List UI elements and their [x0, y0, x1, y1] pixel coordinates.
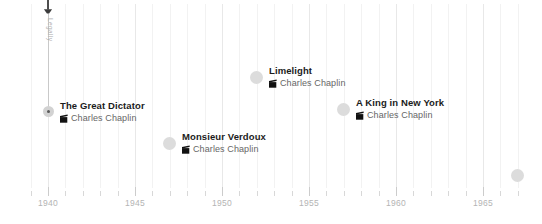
- axis-tick-1962: [431, 191, 432, 196]
- axis-tick-1960: [396, 187, 397, 196]
- event-subtitle: Charles Chaplin: [182, 143, 266, 155]
- clapperboard-icon: [60, 114, 68, 123]
- gridline-1946: [152, 4, 153, 188]
- gridline-1948: [187, 4, 188, 188]
- axis-tick-1961: [413, 191, 414, 196]
- event-title: Limelight: [269, 65, 346, 77]
- gridline-1950: [222, 4, 223, 188]
- gridline-1960: [396, 4, 397, 188]
- gridline-1949: [205, 4, 206, 188]
- event-subtitle: Charles Chaplin: [269, 77, 346, 89]
- axis-tick-1953: [274, 191, 275, 196]
- gridline-1958: [361, 4, 362, 188]
- gridline-1939: [31, 4, 32, 188]
- axis-tick-1954: [292, 191, 293, 196]
- clapperboard-icon: [269, 79, 277, 88]
- event-text-limelight: LimelightCharles Chaplin: [269, 65, 346, 89]
- axis-tick-1948: [187, 191, 188, 196]
- event-subtitle: Charles Chaplin: [356, 109, 444, 121]
- axis-tick-1942: [83, 191, 84, 196]
- gridline-1957: [344, 4, 345, 188]
- axis-label-1940: 1940: [38, 198, 58, 208]
- axis-tick-1947: [170, 191, 171, 196]
- map-pin-icon: [44, 0, 53, 15]
- gridline-1962: [431, 4, 432, 188]
- axis-tick-1959: [379, 191, 380, 196]
- event-subtitle: Charles Chaplin: [60, 112, 145, 124]
- gridline-1941: [65, 4, 66, 188]
- axis-tick-1944: [118, 191, 119, 196]
- gridline-1947: [170, 4, 171, 188]
- event-author: Charles Chaplin: [280, 77, 346, 89]
- event-text-monsieur-verdoux: Monsieur VerdouxCharles Chaplin: [182, 131, 266, 155]
- axis-tick-1957: [344, 191, 345, 196]
- axis-label-1965: 1965: [473, 198, 493, 208]
- gridline-1967: [518, 4, 519, 188]
- event-text-the-great-dictator: The Great DictatorCharles Chaplin: [60, 100, 145, 124]
- axis-tick-1958: [361, 191, 362, 196]
- event-author: Charles Chaplin: [367, 109, 433, 121]
- axis-label-1955: 1955: [299, 198, 319, 208]
- clapperboard-icon: [356, 111, 364, 120]
- event-text-a-king-in-new-york: A King in New YorkCharles Chaplin: [356, 97, 444, 121]
- gridline-1953: [274, 4, 275, 188]
- axis-tick-1964: [466, 191, 467, 196]
- gridline-1943: [100, 4, 101, 188]
- gridline-1966: [500, 4, 501, 188]
- axis-label-1950: 1950: [212, 198, 232, 208]
- axis-tick-1943: [100, 191, 101, 196]
- gridline-1945: [135, 4, 136, 188]
- gridline-1965: [483, 4, 484, 188]
- axis-tick-1967: [518, 191, 519, 196]
- gridline-1963: [448, 4, 449, 188]
- axis-tick-1956: [326, 191, 327, 196]
- gridline-1961: [413, 4, 414, 188]
- axis-tick-1951: [239, 191, 240, 196]
- axis-label-1945: 1945: [125, 198, 145, 208]
- gridline-1959: [379, 4, 380, 188]
- event-title: The Great Dictator: [60, 100, 145, 112]
- timeline-chart: 194019451950195519601965 Legally The Gre…: [0, 0, 542, 224]
- gridline-1956: [326, 4, 327, 188]
- event-marker-the-great-dictator[interactable]: [43, 106, 54, 117]
- event-title: A King in New York: [356, 97, 444, 109]
- event-author: Charles Chaplin: [71, 112, 137, 124]
- event-title: Monsieur Verdoux: [182, 131, 266, 143]
- axis-label-1960: 1960: [386, 198, 406, 208]
- axis-tick-1963: [448, 191, 449, 196]
- event-marker-limelight[interactable]: [250, 71, 263, 84]
- gridline-1955: [309, 4, 310, 188]
- gridline-1942: [83, 4, 84, 188]
- axis-tick-1955: [309, 187, 310, 196]
- anchor-label: Legally: [47, 18, 54, 41]
- event-marker-a-king-in-new-york[interactable]: [337, 103, 350, 116]
- axis-tick-1941: [65, 191, 66, 196]
- axis-tick-1940: [48, 187, 49, 196]
- axis-tick-1946: [152, 191, 153, 196]
- axis-tick-1945: [135, 187, 136, 196]
- axis-tick-1949: [205, 191, 206, 196]
- event-author: Charles Chaplin: [193, 143, 259, 155]
- gridline-1954: [292, 4, 293, 188]
- axis-tick-1966: [500, 191, 501, 196]
- axis-tick-1939: [31, 191, 32, 196]
- clapperboard-icon: [182, 145, 190, 154]
- axis-tick-1965: [483, 187, 484, 196]
- axis-tick-1952: [257, 191, 258, 196]
- event-marker-monsieur-verdoux[interactable]: [163, 137, 176, 150]
- gridline-1944: [118, 4, 119, 188]
- event-marker-a-countess-from-hong-kong[interactable]: [511, 169, 524, 182]
- axis-tick-1950: [222, 187, 223, 196]
- gridline-1952: [257, 4, 258, 188]
- event-marker-core: [47, 110, 50, 113]
- gridline-1951: [239, 4, 240, 188]
- gridline-1964: [466, 4, 467, 188]
